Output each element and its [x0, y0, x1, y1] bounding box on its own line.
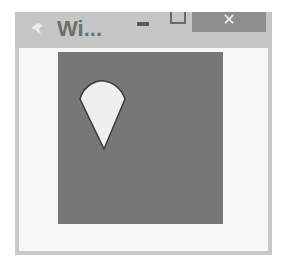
- window-title: Wi...: [57, 16, 102, 42]
- minimize-button[interactable]: [123, 12, 163, 32]
- client-area: [19, 48, 268, 251]
- app-icon[interactable]: [29, 20, 45, 36]
- cone-drop-shape: [78, 80, 128, 152]
- app-window: Wi... ✕: [15, 12, 272, 255]
- close-button[interactable]: ✕: [192, 12, 266, 32]
- drawing-canvas[interactable]: [58, 52, 223, 224]
- maximize-button[interactable]: [163, 12, 193, 32]
- maximize-icon: [170, 12, 186, 24]
- title-bar[interactable]: Wi... ✕: [15, 12, 272, 48]
- minimize-icon: [137, 22, 149, 26]
- close-icon: ✕: [222, 10, 235, 29]
